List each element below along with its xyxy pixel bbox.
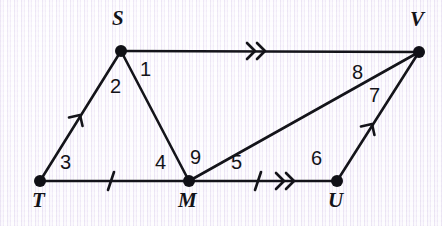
vertex-label-U: U bbox=[328, 190, 343, 211]
angle-label-6: 6 bbox=[311, 148, 322, 168]
segment-UV bbox=[337, 52, 419, 181]
vertex-label-S: S bbox=[112, 8, 124, 29]
segment-SV bbox=[121, 51, 419, 52]
marker-group bbox=[69, 43, 379, 190]
vertex-label-V: V bbox=[410, 9, 424, 30]
vertex-label-M: M bbox=[178, 190, 197, 211]
segment-MV bbox=[189, 52, 419, 181]
vertex-dot-T bbox=[34, 175, 46, 187]
vertex-dot-U bbox=[331, 175, 343, 187]
angle-label-8: 8 bbox=[352, 62, 363, 82]
geometry-diagram-svg bbox=[0, 0, 442, 226]
vertex-dot-group bbox=[34, 45, 425, 187]
vertex-label-T: T bbox=[32, 190, 45, 211]
vertex-dot-V bbox=[413, 46, 425, 58]
angle-label-5: 5 bbox=[231, 152, 242, 172]
angle-label-1: 1 bbox=[140, 59, 151, 79]
geometry-figure-canvas: S V T M U 1 2 3 4 5 6 7 8 9 bbox=[0, 0, 442, 226]
angle-label-3: 3 bbox=[60, 152, 71, 172]
vertex-dot-S bbox=[115, 45, 127, 57]
angle-label-2: 2 bbox=[110, 76, 121, 96]
angle-label-4: 4 bbox=[155, 152, 166, 172]
angle-label-7: 7 bbox=[369, 85, 380, 105]
angle-label-9: 9 bbox=[190, 147, 201, 167]
vertex-dot-M bbox=[183, 175, 195, 187]
